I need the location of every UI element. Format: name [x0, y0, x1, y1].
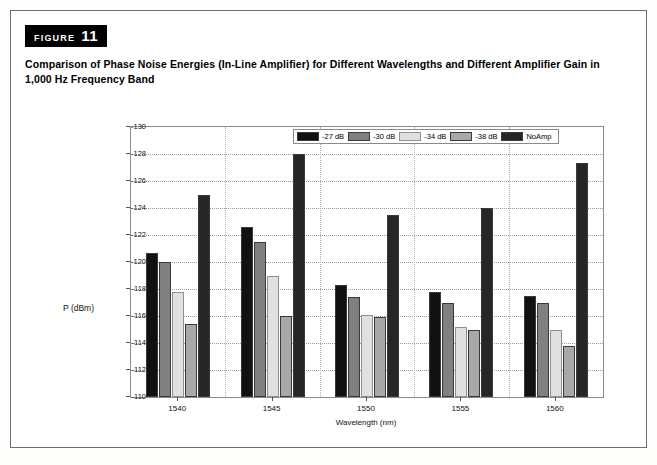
bar-neg30dB-1560: [537, 303, 549, 398]
bar-neg38dB-1545: [280, 316, 292, 397]
bar-neg30dB-1555: [442, 303, 454, 398]
y-axis-tick-mark: [126, 153, 130, 154]
bar-neg27dB-1540: [146, 253, 158, 397]
bar-neg27dB-1555: [429, 292, 441, 397]
bar-NoAmp-1540: [198, 195, 210, 398]
legend-item: -38 dB: [450, 132, 501, 141]
y-axis-tick-label: -120: [86, 257, 146, 266]
chart-container: P (dBm) -130-128-126-124-122-120-118-116…: [59, 115, 634, 435]
x-axis-tick-label: 1545: [263, 404, 281, 413]
legend-swatch-icon: [501, 132, 523, 141]
legend-item: -30 dB: [348, 132, 399, 141]
gridline: [131, 181, 603, 182]
bar-neg27dB-1545: [241, 227, 253, 397]
x-axis-tick-mark: [272, 397, 273, 401]
x-axis-tick-mark: [555, 397, 556, 401]
figure-number-tag: FIGURE 11: [25, 25, 107, 47]
x-axis-tick-mark: [177, 397, 178, 401]
bar-neg34dB-1555: [455, 327, 467, 397]
bar-neg38dB-1550: [374, 317, 386, 397]
bar-NoAmp-1545: [293, 154, 305, 397]
y-axis-tick-label: -122: [86, 230, 146, 239]
vertical-gridline: [509, 127, 510, 397]
bar-neg34dB-1545: [267, 276, 279, 398]
x-axis-tick-mark: [366, 397, 367, 401]
legend-label: -27 dB: [322, 132, 344, 141]
legend-swatch-icon: [399, 132, 421, 141]
figure-frame: FIGURE 11 Comparison of Phase Noise Ener…: [10, 10, 647, 448]
plot-area: [130, 126, 604, 398]
bar-neg38dB-1540: [185, 324, 197, 397]
vertical-gridline: [414, 127, 415, 397]
y-axis-tick-mark: [126, 342, 130, 343]
figure-tag-word: FIGURE: [34, 33, 75, 43]
x-axis-tick-label: 1540: [168, 404, 186, 413]
bar-neg30dB-1550: [348, 297, 360, 397]
y-axis-tick-label: -128: [86, 149, 146, 158]
bar-neg34dB-1560: [550, 330, 562, 398]
y-axis-tick-mark: [126, 315, 130, 316]
legend-label: -34 dB: [424, 132, 446, 141]
y-axis-tick-label: -118: [86, 284, 146, 293]
gridline: [131, 154, 603, 155]
bar-neg38dB-1555: [468, 330, 480, 398]
legend-swatch-icon: [348, 132, 370, 141]
bar-neg27dB-1550: [335, 285, 347, 397]
y-axis-tick-mark: [126, 261, 130, 262]
x-axis-title: Wavelength (nm): [130, 418, 602, 427]
bar-neg30dB-1545: [254, 242, 266, 397]
y-axis-tick-mark: [126, 288, 130, 289]
y-axis-tick-label: -130: [86, 122, 146, 131]
y-axis-tick-mark: [126, 369, 130, 370]
bar-neg38dB-1560: [563, 346, 575, 397]
bar-neg34dB-1540: [172, 292, 184, 397]
y-axis-tick-label: -116: [86, 311, 146, 320]
y-axis-tick-mark: [126, 180, 130, 181]
vertical-gridline: [320, 127, 321, 397]
legend-item: -27 dB: [297, 132, 348, 141]
legend-label: NoAmp: [526, 132, 551, 141]
figure-tag-number: 11: [81, 28, 98, 43]
figure-page: FIGURE 11 Comparison of Phase Noise Ener…: [0, 0, 657, 465]
y-axis-tick-label: -112: [86, 365, 146, 374]
chart-legend: -27 dB-30 dB-34 dB-38 dBNoAmp: [293, 129, 559, 144]
x-axis-tick-label: 1550: [357, 404, 375, 413]
y-axis-tick-mark: [126, 396, 130, 397]
legend-label: -30 dB: [373, 132, 395, 141]
bar-NoAmp-1550: [387, 215, 399, 397]
bar-neg30dB-1540: [159, 262, 171, 397]
legend-label: -38 dB: [475, 132, 497, 141]
x-axis-tick-label: 1560: [546, 404, 564, 413]
bar-NoAmp-1560: [576, 163, 588, 397]
bar-neg34dB-1550: [361, 315, 373, 397]
bar-NoAmp-1555: [481, 208, 493, 397]
vertical-gridline: [225, 127, 226, 397]
x-axis-tick-label: 1555: [451, 404, 469, 413]
figure-caption: Comparison of Phase Noise Energies (In-L…: [25, 57, 625, 87]
legend-swatch-icon: [297, 132, 319, 141]
legend-item: NoAmp: [501, 132, 555, 141]
legend-swatch-icon: [450, 132, 472, 141]
bar-neg27dB-1560: [524, 296, 536, 397]
y-axis-tick-label: -114: [86, 338, 146, 347]
y-axis-tick-mark: [126, 207, 130, 208]
y-axis-tick-mark: [126, 126, 130, 127]
y-axis-tick-label: -124: [86, 203, 146, 212]
y-axis-tick-label: -126: [86, 176, 146, 185]
legend-item: -34 dB: [399, 132, 450, 141]
y-axis-tick-label: -110: [86, 392, 146, 401]
y-axis-tick-mark: [126, 234, 130, 235]
x-axis-tick-mark: [460, 397, 461, 401]
